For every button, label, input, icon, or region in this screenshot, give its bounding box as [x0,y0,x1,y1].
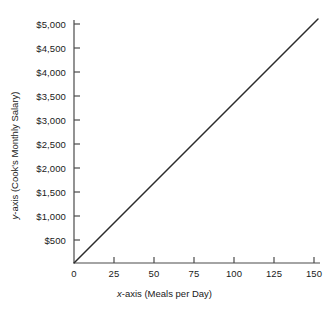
x-tick-label: 50 [149,268,160,279]
x-tick-label: 75 [189,268,200,279]
y-axis-title: y-axis (Cook's Monthly Salary) [8,0,22,311]
y-axis-ticks [74,24,80,240]
chart-container: $500 $1,000 $1,500 $2,000 $2,500 $3,000 … [0,0,329,311]
x-tick-label: 125 [266,268,282,279]
x-tick-label: 0 [71,268,76,279]
x-tick-label: 150 [306,268,322,279]
x-tick-label: 100 [226,268,242,279]
x-tick-label: 25 [109,268,120,279]
x-axis-title: x-axis (Meals per Day) [0,288,329,299]
x-axis-ticks [114,257,314,263]
y-axis-title-italic: y [9,215,20,220]
y-axis-title-rest: -axis (Cook's Monthly Salary) [9,92,20,215]
data-series-line [74,19,318,263]
x-axis-title-rest: -axis (Meals per Day) [122,288,212,299]
